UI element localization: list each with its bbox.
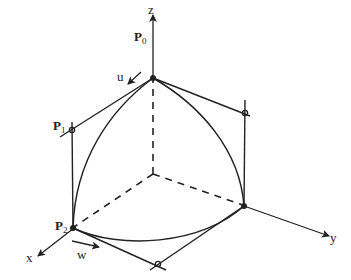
y-axis-label: y [330, 230, 337, 245]
p2-label-sub: 2 [63, 225, 68, 235]
p0-label-sub: 0 [142, 36, 147, 46]
p0-label-main: P [134, 29, 142, 44]
p2-label: P2 [55, 218, 67, 235]
p1-label-main: P [53, 118, 61, 133]
patch-boundary [73, 78, 244, 241]
tangent-p2-bottom [73, 228, 166, 270]
hidden-axes [74, 80, 243, 227]
tangent-p0-right [153, 78, 250, 116]
diagram-svg: z y x P0 P1 P2 u w [0, 0, 351, 280]
z-axis-label: z [148, 2, 154, 17]
p1-label-sub: 1 [61, 125, 66, 135]
vertex-p0 [150, 75, 155, 80]
p0-label: P0 [134, 29, 147, 46]
curve-p0-p2 [73, 78, 153, 228]
curve-p0-right [153, 78, 244, 206]
vertex-right [241, 203, 246, 208]
p2-label-main: P [55, 218, 63, 233]
x-axis-label: x [26, 250, 33, 265]
y-axis [244, 206, 329, 236]
diagram-canvas: z y x P0 P1 P2 u w [0, 0, 351, 280]
u-direction-arrow-icon [128, 72, 141, 84]
axes [38, 15, 329, 256]
p1-label: P1 [53, 118, 65, 135]
hidden-y-axis [153, 174, 243, 205]
edge-p1-p2 [72, 122, 73, 228]
tangent-right-bottom [150, 206, 244, 270]
w-label: w [77, 247, 87, 262]
vertex-p2 [70, 225, 75, 230]
u-label: u [117, 69, 124, 84]
hidden-x-axis [74, 174, 153, 227]
